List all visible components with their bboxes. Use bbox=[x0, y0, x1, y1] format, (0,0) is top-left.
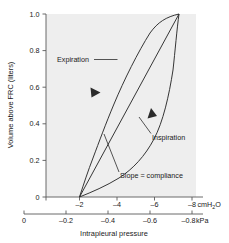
plot-area-background bbox=[46, 14, 196, 197]
annotation-label-inspiration: Inspiration bbox=[152, 133, 185, 142]
x-secondary-label-0: 0 bbox=[22, 216, 26, 225]
pressure-volume-loop-figure: 0 0.2 0.4 0.6 0.8 1.0 Volume above FRC (… bbox=[0, 0, 229, 243]
y-tick-label-0-6: 0.6 bbox=[30, 83, 40, 92]
x-axis-title: Intrapleural pressure bbox=[80, 229, 148, 238]
y-axis: 0 0.2 0.4 0.6 0.8 1.0 Volume above FRC (… bbox=[6, 10, 46, 202]
x-primary-unit: cmH2O bbox=[198, 200, 222, 210]
x-primary-unit-suffix: O bbox=[215, 200, 221, 209]
x-secondary-label-0-4: –0.4 bbox=[101, 216, 115, 225]
annotation-label-expiration: Expiration bbox=[57, 55, 89, 64]
x-axis-secondary: 0 –0.2 –0.4 –0.6 –0.8 kPa Intrapleural p… bbox=[22, 211, 208, 239]
x-primary-unit-main: cmH bbox=[198, 200, 213, 209]
y-tick-label-0-8: 0.8 bbox=[30, 46, 40, 55]
x-primary-label-minus6: –6 bbox=[151, 200, 159, 209]
y-tick-label-0-4: 0.4 bbox=[30, 119, 40, 128]
x-primary-label-minus2: –2 bbox=[76, 200, 84, 209]
x-primary-label-minus8: –8 bbox=[188, 200, 196, 209]
y-tick-label-0: 0 bbox=[36, 193, 40, 202]
annotation-label-slope-compliance: Slope = compliance bbox=[120, 171, 183, 180]
y-tick-label-1-0: 1.0 bbox=[30, 10, 40, 19]
x-primary-label-minus4: –4 bbox=[113, 200, 121, 209]
x-secondary-label-0-2: –0.2 bbox=[59, 216, 73, 225]
x-axis-primary: –2 –4 –6 –8 cmH2O bbox=[46, 197, 221, 210]
chart-canvas: 0 0.2 0.4 0.6 0.8 1.0 Volume above FRC (… bbox=[0, 0, 229, 243]
y-axis-title: Volume above FRC (liters) bbox=[6, 62, 15, 149]
x-secondary-unit: kPa bbox=[196, 216, 208, 225]
x-secondary-label-0-6: –0.6 bbox=[143, 216, 157, 225]
x-secondary-label-0-8: –0.8 bbox=[182, 216, 196, 225]
y-tick-label-0-2: 0.2 bbox=[30, 156, 40, 165]
